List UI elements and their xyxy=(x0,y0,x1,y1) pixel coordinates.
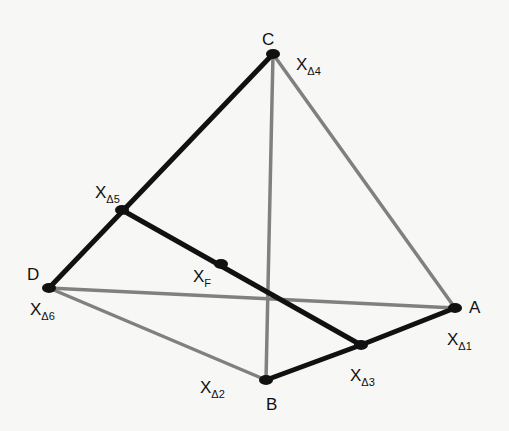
vertex-D-dot xyxy=(42,283,56,293)
label-X-F: XF xyxy=(193,267,211,289)
point-Xd5-dot xyxy=(115,205,129,215)
point-Xd3-dot xyxy=(354,340,368,350)
point-XF-dot xyxy=(214,259,228,269)
edge-B-Xd3 xyxy=(266,345,361,380)
vertex-C-dot xyxy=(266,49,280,59)
label-X-delta3: XΔ3 xyxy=(350,366,375,388)
edge-C-D xyxy=(49,54,273,288)
tetrahedron-diagram: C XΔ4 XΔ5 D XΔ6 XF A XΔ1 XΔ3 XΔ2 B xyxy=(0,0,509,431)
label-C: C xyxy=(262,30,274,49)
label-X-delta4: XΔ4 xyxy=(296,55,321,77)
label-B: B xyxy=(266,395,277,414)
label-A: A xyxy=(469,298,481,317)
vertex-B-dot xyxy=(259,375,273,385)
vertex-A-dot xyxy=(448,303,462,313)
edge-Xd3-A xyxy=(361,308,455,345)
edge-Xd5-Xd3 xyxy=(122,210,361,345)
label-X-delta6: XΔ6 xyxy=(30,300,55,322)
label-X-delta2: XΔ2 xyxy=(200,378,225,400)
label-X-delta5: XΔ5 xyxy=(95,183,120,205)
edge-D-B xyxy=(49,288,266,380)
edge-C-B xyxy=(266,54,273,380)
label-D: D xyxy=(27,265,39,284)
edge-D-A xyxy=(49,288,455,308)
label-X-delta1: XΔ1 xyxy=(447,330,472,352)
edge-C-A xyxy=(273,54,455,308)
